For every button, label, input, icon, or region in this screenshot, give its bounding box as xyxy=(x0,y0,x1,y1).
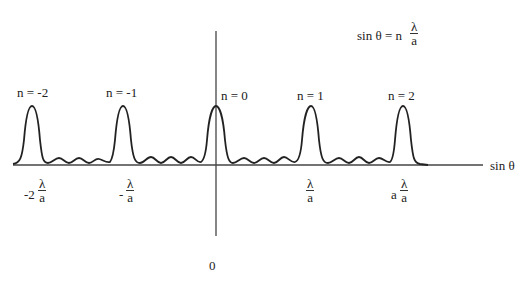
tick-prefix-minus-1: - xyxy=(119,187,123,203)
order-label-n-minus-1: n = -1 xyxy=(106,85,137,101)
origin-label: 0 xyxy=(209,258,216,274)
order-label-n-0: n = 0 xyxy=(221,88,248,104)
x-axis-label: sin θ xyxy=(490,158,515,174)
order-label-n-2: n = 2 xyxy=(388,88,415,104)
equation-lhs: sin θ = n xyxy=(357,28,402,44)
tick-denominator: a xyxy=(127,191,133,204)
tick-prefix-2: a xyxy=(391,187,397,203)
tick-numerator: λ xyxy=(38,177,46,191)
equation-numerator: λ xyxy=(410,20,418,34)
tick-numerator: λ xyxy=(126,177,134,191)
tick-fraction-1: λ a xyxy=(306,177,314,204)
diffraction-diagram xyxy=(0,0,529,286)
equation-denominator: a xyxy=(411,34,417,47)
equation-fraction: λ a xyxy=(410,20,418,47)
tick-fraction-2: λ a xyxy=(400,177,408,204)
tick-fraction-minus-2: λ a xyxy=(38,177,46,204)
tick-denominator: a xyxy=(39,191,45,204)
order-label-n-minus-2: n = -2 xyxy=(17,85,48,101)
tick-numerator: λ xyxy=(306,177,314,191)
tick-prefix-minus-2: -2 xyxy=(24,187,35,203)
tick-denominator: a xyxy=(307,191,313,204)
intensity-curve xyxy=(13,106,428,165)
order-label-n-1: n = 1 xyxy=(297,88,324,104)
tick-denominator: a xyxy=(401,191,407,204)
tick-numerator: λ xyxy=(400,177,408,191)
tick-fraction-minus-1: λ a xyxy=(126,177,134,204)
